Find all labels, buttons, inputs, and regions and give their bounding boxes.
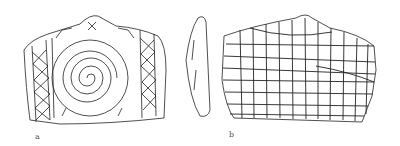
label-a: a	[35, 132, 40, 141]
label-b: b	[229, 130, 234, 139]
object-b	[222, 15, 376, 122]
figure-drawing	[0, 0, 400, 146]
object-side	[186, 17, 210, 117]
object-a	[24, 16, 166, 124]
